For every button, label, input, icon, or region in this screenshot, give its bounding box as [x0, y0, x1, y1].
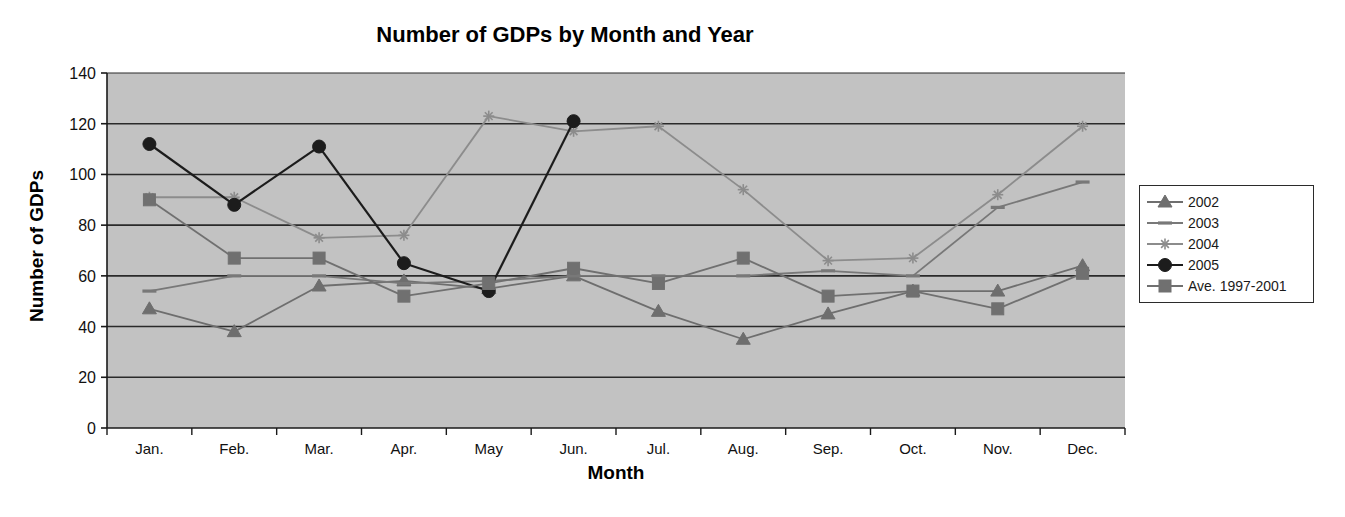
- x-tick-label: Apr.: [391, 440, 418, 457]
- chart-container: Number of GDPs by Month and Year Number …: [0, 0, 1345, 517]
- y-tick-label: 80: [78, 217, 96, 234]
- legend-marker-square-icon: [1146, 278, 1184, 294]
- chart-legend: 2002200320042005Ave. 1997-2001: [1139, 185, 1314, 303]
- y-tick-label: 120: [69, 116, 96, 133]
- data-point-square: [822, 290, 834, 302]
- legend-marker-triangle-icon: [1146, 194, 1184, 210]
- data-point-square: [228, 252, 240, 264]
- x-tick-label: Dec.: [1067, 440, 1098, 457]
- x-tick-label: Oct.: [899, 440, 927, 457]
- y-tick-label: 0: [87, 420, 96, 437]
- legend-item-2003[interactable]: 2003: [1146, 212, 1307, 233]
- data-point-circle: [1159, 258, 1172, 271]
- legend-item-ave-1997-2001[interactable]: Ave. 1997-2001: [1146, 275, 1307, 296]
- plot-background: [107, 73, 1125, 428]
- y-tick-label: 20: [78, 369, 96, 386]
- legend-marker-circle-icon: [1146, 257, 1184, 273]
- data-point-square: [568, 262, 580, 274]
- x-tick-label: Jul.: [647, 440, 670, 457]
- x-tick-label: Jun.: [559, 440, 587, 457]
- x-tick-label: Jan.: [135, 440, 163, 457]
- data-point-circle: [313, 140, 326, 153]
- data-point-square: [737, 252, 749, 264]
- legend-item-2005[interactable]: 2005: [1146, 254, 1307, 275]
- x-tick-label: Mar.: [304, 440, 333, 457]
- data-point-square: [143, 194, 155, 206]
- data-point-square: [652, 277, 664, 289]
- data-point-circle: [397, 257, 410, 270]
- y-tick-label: 40: [78, 319, 96, 336]
- x-tick-label: May: [475, 440, 504, 457]
- legend-marker-dash-icon: [1146, 215, 1184, 231]
- x-tick-label: Sep.: [813, 440, 844, 457]
- x-tick-label: Nov.: [983, 440, 1013, 457]
- legend-label: 2005: [1188, 258, 1219, 272]
- data-point-circle: [228, 198, 241, 211]
- data-point-square: [313, 252, 325, 264]
- legend-label: 2003: [1188, 216, 1219, 230]
- legend-marker-star-icon: [1146, 236, 1184, 252]
- data-point-square: [907, 285, 919, 297]
- y-tick-label: 140: [69, 65, 96, 82]
- data-point-triangle: [1158, 195, 1172, 207]
- legend-label: 2004: [1188, 237, 1219, 251]
- data-point-circle: [143, 138, 156, 151]
- data-point-circle: [567, 115, 580, 128]
- data-point-square: [1077, 267, 1089, 279]
- data-point-square: [1159, 280, 1171, 292]
- legend-label: Ave. 1997-2001: [1188, 279, 1287, 293]
- x-tick-label: Aug.: [728, 440, 759, 457]
- legend-item-2002[interactable]: 2002: [1146, 191, 1307, 212]
- data-point-square: [992, 303, 1004, 315]
- legend-item-2004[interactable]: 2004: [1146, 233, 1307, 254]
- legend-label: 2002: [1188, 195, 1219, 209]
- y-tick-label: 100: [69, 166, 96, 183]
- y-tick-label: 60: [78, 268, 96, 285]
- data-point-square: [483, 277, 495, 289]
- x-tick-label: Feb.: [219, 440, 249, 457]
- data-point-square: [398, 290, 410, 302]
